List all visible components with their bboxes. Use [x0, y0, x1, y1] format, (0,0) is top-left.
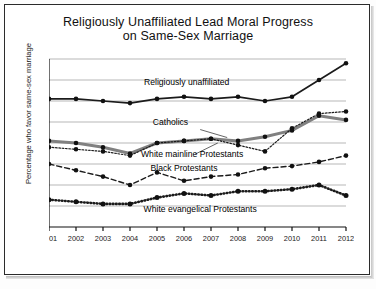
data-point — [317, 183, 322, 188]
series-line — [49, 185, 346, 204]
x-tick-label: 2003 — [95, 234, 111, 243]
data-point — [290, 95, 295, 100]
data-point — [182, 139, 187, 144]
data-point — [263, 99, 268, 104]
x-tick-label: 2011 — [311, 234, 327, 243]
data-point — [263, 166, 268, 171]
data-point — [155, 141, 160, 146]
data-point — [74, 199, 79, 204]
x-tick-label: 2012 — [338, 234, 354, 243]
data-point — [263, 134, 268, 139]
x-tick-label: 2009 — [257, 234, 273, 243]
series-line — [49, 116, 346, 154]
data-point — [182, 95, 187, 100]
line-chart-svg: 0102030405060708020012002200320042005200… — [49, 53, 354, 249]
x-tick-label: 2007 — [203, 234, 219, 243]
data-point — [236, 172, 241, 177]
series-annotation-label: Black Protestants — [151, 163, 218, 173]
data-point — [344, 61, 349, 66]
series-annotation-label: Religiously unaffiliated — [144, 77, 230, 87]
y-axis-label: Percentage who favor same-sex marriage — [24, 29, 33, 199]
plot-area: 0102030405060708020012002200320042005200… — [49, 53, 354, 249]
x-tick-label: 2002 — [68, 234, 84, 243]
data-point — [344, 153, 349, 158]
data-point — [236, 139, 241, 144]
data-point — [74, 97, 79, 102]
data-point — [182, 191, 187, 196]
data-point — [344, 118, 349, 123]
x-tick-label: 2004 — [122, 234, 138, 243]
data-point — [209, 174, 214, 179]
data-point — [182, 179, 187, 184]
series-annotation-label: White evangelical Protestants — [144, 204, 257, 214]
data-point — [49, 162, 51, 167]
data-point — [101, 99, 106, 104]
data-point — [128, 153, 133, 158]
data-point — [101, 149, 106, 154]
data-point — [101, 201, 106, 206]
data-point — [263, 149, 268, 154]
x-tick-label: 2005 — [149, 234, 165, 243]
chart-frame: Religiously Unaffiliated Lead Moral Prog… — [4, 4, 370, 275]
data-point — [49, 197, 52, 202]
annotation-leader-line — [200, 130, 227, 138]
chart-page: Religiously Unaffiliated Lead Moral Prog… — [0, 0, 376, 289]
data-point — [236, 143, 241, 148]
data-point — [263, 189, 268, 194]
x-tick-label: 2006 — [176, 234, 192, 243]
data-point — [128, 183, 133, 188]
data-point — [74, 147, 79, 152]
data-point — [317, 111, 322, 116]
x-tick-label: 2001 — [49, 234, 57, 243]
data-point — [49, 97, 51, 102]
chart-title: Religiously Unaffiliated Lead Moral Prog… — [5, 15, 371, 43]
chart-title-line2: on Same-Sex Marriage — [5, 29, 371, 43]
data-point — [209, 97, 214, 102]
page-edge — [371, 6, 374, 278]
data-point — [317, 78, 322, 83]
data-point — [74, 168, 79, 173]
data-point — [128, 201, 133, 206]
data-point — [290, 126, 295, 131]
x-tick-label: 2008 — [230, 234, 246, 243]
data-point — [209, 137, 214, 142]
data-point — [290, 187, 295, 192]
chart-title-line1: Religiously Unaffiliated Lead Moral Prog… — [5, 15, 371, 29]
page-shadow — [6, 276, 374, 279]
data-point — [317, 160, 322, 165]
data-point — [236, 189, 241, 194]
data-point — [344, 193, 349, 198]
data-point — [101, 174, 106, 179]
data-point — [290, 164, 295, 169]
series-annotation-label: Catholics — [153, 117, 188, 127]
data-point — [236, 95, 241, 100]
data-point — [155, 97, 160, 102]
data-point — [128, 101, 133, 106]
data-point — [49, 145, 51, 150]
data-point — [155, 195, 160, 200]
x-tick-label: 2010 — [284, 234, 300, 243]
data-point — [209, 193, 214, 198]
data-point — [344, 109, 349, 114]
data-point — [74, 141, 79, 146]
series-annotation-label: White mainline Protestants — [141, 149, 243, 159]
data-point — [101, 145, 106, 150]
